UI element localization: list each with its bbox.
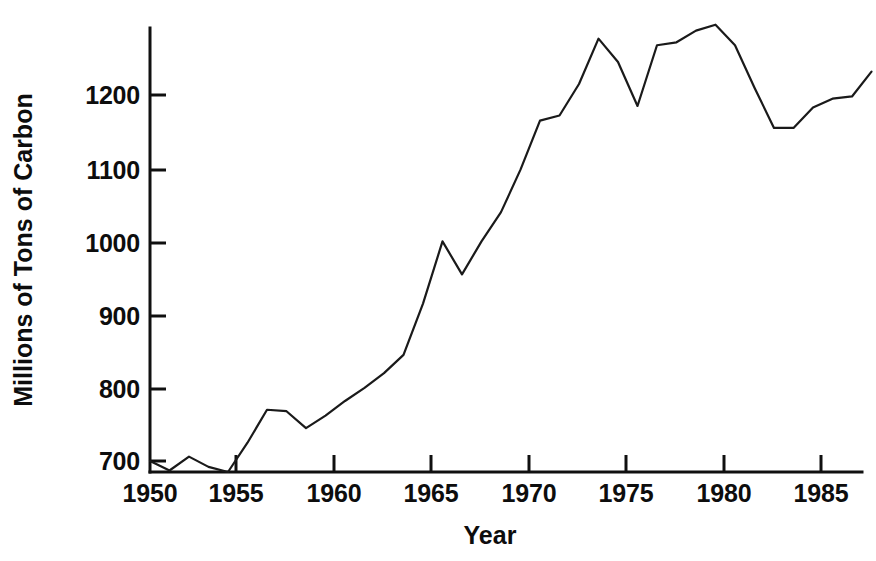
y-tick-label-700: 700 <box>99 447 140 475</box>
x-axis-ticks <box>236 455 821 472</box>
x-tick-label-1975: 1975 <box>599 479 654 507</box>
x-axis-tick-labels: 1950 1955 1960 1965 1970 1975 1980 1985 <box>123 479 849 507</box>
y-tick-label-900: 900 <box>99 302 140 330</box>
data-series-line <box>150 25 872 472</box>
x-axis-title: Year <box>464 521 517 549</box>
y-tick-label-800: 800 <box>99 375 140 403</box>
x-tick-label-1985: 1985 <box>794 479 849 507</box>
y-tick-label-1200: 1200 <box>85 81 140 109</box>
y-axis-ticks <box>150 95 166 461</box>
y-tick-label-1100: 1100 <box>87 156 140 184</box>
x-tick-label-1970: 1970 <box>502 479 557 507</box>
x-tick-label-1960: 1960 <box>307 479 362 507</box>
y-axis-title: Millions of Tons of Carbon <box>9 93 37 406</box>
chart-container: 1200 1100 1000 900 800 700 1950 1955 196… <box>0 0 876 561</box>
x-tick-label-1955: 1955 <box>209 479 264 507</box>
y-tick-label-1000: 1000 <box>85 229 140 257</box>
x-tick-label-1965: 1965 <box>404 479 459 507</box>
y-axis-tick-labels: 1200 1100 1000 900 800 700 <box>85 81 140 475</box>
x-tick-label-1980: 1980 <box>697 479 752 507</box>
x-tick-label-1950: 1950 <box>123 479 178 507</box>
line-chart: 1200 1100 1000 900 800 700 1950 1955 196… <box>0 0 876 561</box>
